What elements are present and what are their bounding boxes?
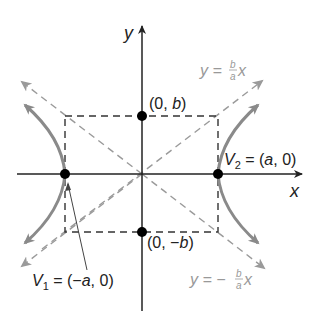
- hyperbola-diagram: y x (0, b) (0, −b) V2 = (a, 0) V1 = (−a,…: [0, 0, 319, 320]
- asymptote-negative-tail: [142, 174, 264, 268]
- left-branch-upper: [25, 105, 65, 174]
- vertex-v2: [213, 169, 223, 179]
- vertex-v1: [60, 169, 70, 179]
- label-v1: V1 = (−a, 0): [32, 272, 114, 292]
- y-axis-label: y: [122, 23, 134, 43]
- svg-text:x: x: [237, 62, 247, 79]
- svg-text:b: b: [230, 59, 236, 70]
- svg-text:a: a: [236, 280, 242, 291]
- asymptote-negative-label: y = − b a x: [189, 268, 253, 291]
- v1-leader-arrowhead: [65, 182, 71, 191]
- svg-text:a: a: [230, 71, 236, 82]
- label-v2: V2 = (a, 0): [224, 151, 296, 171]
- label-0-neg-b: (0, −b): [147, 234, 194, 251]
- point-0-b: [137, 111, 147, 121]
- svg-text:y = −: y = −: [189, 271, 226, 288]
- asymptote-positive-label: y = b a x: [199, 59, 247, 82]
- label-0-b: (0, b): [149, 95, 186, 112]
- svg-text:x: x: [243, 271, 253, 288]
- svg-text:y =: y =: [199, 62, 222, 79]
- x-axis-label: x: [289, 181, 300, 201]
- point-0-neg-b: [137, 227, 147, 237]
- asymptote-positive-tail: [22, 174, 142, 266]
- left-branch-lower: [25, 174, 65, 243]
- right-branch-lower: [218, 174, 258, 243]
- asymptote-negative: [22, 82, 142, 174]
- svg-text:b: b: [236, 268, 242, 279]
